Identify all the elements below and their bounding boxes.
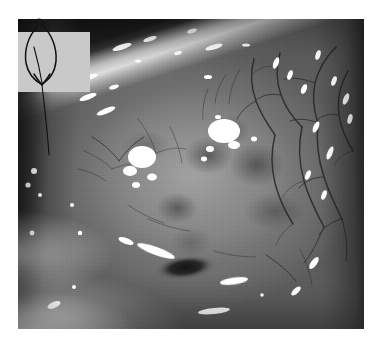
annotation-label-patch xyxy=(18,32,90,92)
figure-page xyxy=(0,0,379,345)
